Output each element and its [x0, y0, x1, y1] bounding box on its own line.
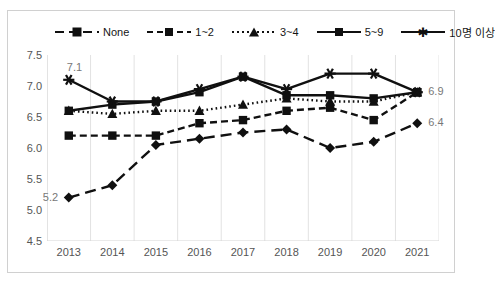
y-tick-label: 7.5: [16, 49, 42, 61]
star-marker-icon: ✱: [418, 26, 429, 39]
y-tick-label: 5.5: [16, 173, 42, 185]
x-tick-label: 2014: [88, 246, 136, 258]
legend-swatch-3-4: [232, 26, 276, 38]
diamond-marker-icon: [73, 28, 82, 37]
x-tick-label: 2017: [219, 246, 267, 258]
diamond-marker-icon: [107, 180, 117, 190]
diamond-marker-icon: [238, 128, 248, 138]
y-tick-label: 4.5: [16, 235, 42, 247]
x-tick-label: 2015: [132, 246, 180, 258]
legend-item-10-plus[interactable]: ✱ 10명 이상: [401, 23, 494, 41]
legend-label-10-plus: 10명 이상: [449, 24, 494, 40]
x-tick-label: 2021: [393, 246, 441, 258]
square-marker-icon: [282, 107, 290, 115]
legend-item-5-9[interactable]: 5~9: [317, 23, 384, 41]
data-label: 6.4: [428, 116, 443, 128]
legend-label-1-2: 1~2: [195, 26, 214, 38]
x-axis: 201320142015201620172018201920202021: [47, 246, 439, 262]
diamond-marker-icon: [325, 143, 335, 153]
data-label: 7.1: [67, 61, 82, 73]
legend-item-1-2[interactable]: 1~2: [147, 23, 214, 41]
chart-legend: None 1~2 3~4 5~9 ✱: [55, 23, 440, 41]
legend-label-3-4: 3~4: [280, 26, 299, 38]
legend-item-none[interactable]: None: [55, 23, 129, 41]
star-marker-icon: [63, 75, 74, 85]
square-marker-icon: [326, 91, 334, 99]
legend-swatch-none: [55, 26, 99, 38]
square-marker-icon: [108, 131, 116, 139]
diamond-marker-icon: [282, 124, 292, 134]
y-tick-label: 6.5: [16, 111, 42, 123]
x-tick-label: 2019: [306, 246, 354, 258]
legend-label-none: None: [103, 26, 129, 38]
legend-label-5-9: 5~9: [365, 26, 384, 38]
x-tick-label: 2016: [175, 246, 223, 258]
square-marker-icon: [65, 131, 73, 139]
square-marker-icon: [152, 131, 160, 139]
star-marker-icon: [368, 69, 379, 79]
triangle-marker-icon: [249, 28, 259, 37]
legend-swatch-1-2: [147, 26, 191, 38]
diamond-marker-icon: [194, 134, 204, 144]
y-tick-label: 6.0: [16, 142, 42, 154]
square-marker-icon: [65, 107, 73, 115]
diamond-marker-icon: [64, 193, 74, 203]
diamond-marker-icon: [369, 137, 379, 147]
data-label: 6.9: [428, 85, 443, 97]
square-marker-icon: [165, 28, 173, 36]
y-tick-label: 7.0: [16, 80, 42, 92]
x-tick-label: 2018: [263, 246, 311, 258]
square-marker-icon: [239, 116, 247, 124]
star-marker-icon: [325, 69, 336, 79]
square-marker-icon: [369, 94, 377, 102]
series-0: [64, 118, 422, 202]
data-label: 5.2: [43, 191, 58, 203]
y-axis: 7.57.06.56.05.55.04.5: [14, 55, 42, 241]
legend-swatch-5-9: [317, 26, 361, 38]
x-tick-label: 2013: [45, 246, 93, 258]
square-marker-icon: [369, 116, 377, 124]
diamond-marker-icon: [151, 140, 161, 150]
square-marker-icon: [195, 119, 203, 127]
chart-svg: [47, 55, 439, 241]
square-marker-icon: [335, 28, 343, 36]
y-tick-label: 5.0: [16, 204, 42, 216]
diamond-marker-icon: [412, 118, 422, 128]
legend-swatch-10-plus: ✱: [401, 26, 445, 38]
x-tick-label: 2020: [350, 246, 398, 258]
plot-area: 7.15.26.96.4: [47, 55, 439, 241]
legend-item-3-4[interactable]: 3~4: [232, 23, 299, 41]
